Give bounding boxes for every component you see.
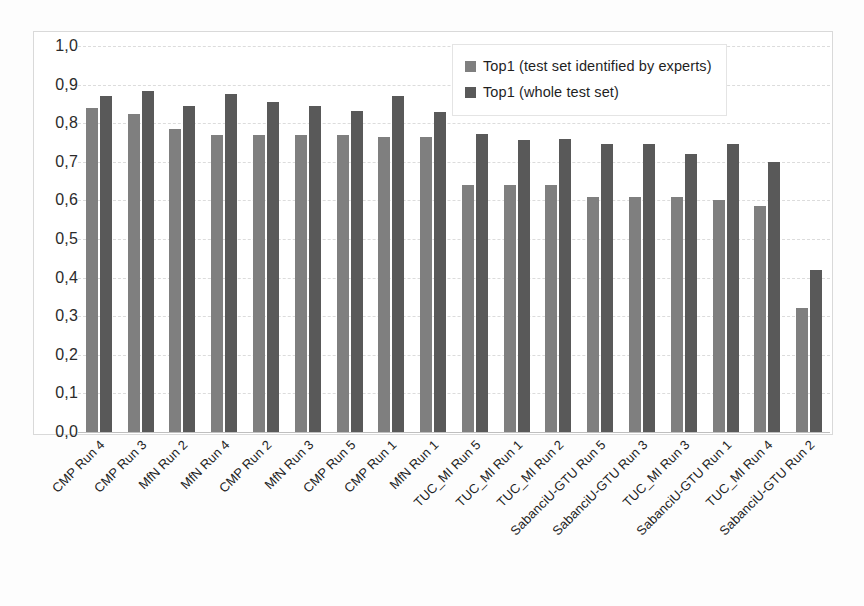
bar bbox=[378, 137, 390, 432]
bar bbox=[545, 185, 557, 432]
bar bbox=[727, 144, 739, 432]
bar bbox=[518, 140, 530, 432]
bar bbox=[351, 111, 363, 432]
y-axis-tick-label: 1,0 bbox=[36, 37, 78, 55]
y-axis-tick-label: 0,4 bbox=[36, 269, 78, 287]
bar bbox=[713, 200, 725, 432]
bar-group bbox=[418, 46, 448, 432]
bar bbox=[504, 185, 516, 432]
bar bbox=[142, 91, 154, 432]
bar-group bbox=[84, 46, 114, 432]
bar-group bbox=[167, 46, 197, 432]
bar bbox=[225, 94, 237, 432]
x-axis: CMP Run 4CMP Run 3MfN Run 2MfN Run 4CMP … bbox=[78, 437, 830, 587]
bar bbox=[685, 154, 697, 432]
bar bbox=[434, 112, 446, 432]
legend-item: Top1 (test set identified by experts) bbox=[465, 53, 712, 79]
bar-chart: 1,00,90,80,70,60,50,40,30,20,10,0 CMP Ru… bbox=[0, 0, 864, 606]
bar-group bbox=[251, 46, 281, 432]
bar-group bbox=[209, 46, 239, 432]
y-axis-tick-label: 0,0 bbox=[36, 423, 78, 441]
bar bbox=[587, 197, 599, 432]
bar bbox=[420, 137, 432, 432]
y-axis-tick-label: 0,5 bbox=[36, 230, 78, 248]
legend-label: Top1 (whole test set) bbox=[483, 84, 619, 100]
bar bbox=[253, 135, 265, 432]
bar-group bbox=[126, 46, 156, 432]
legend-swatch-icon bbox=[465, 87, 476, 98]
legend-label: Top1 (test set identified by experts) bbox=[483, 58, 712, 74]
bar bbox=[810, 270, 822, 432]
bar bbox=[643, 144, 655, 432]
bar bbox=[169, 129, 181, 432]
y-axis: 1,00,90,80,70,60,50,40,30,20,10,0 bbox=[33, 46, 78, 432]
bar bbox=[462, 185, 474, 432]
bar-group bbox=[293, 46, 323, 432]
bar bbox=[86, 108, 98, 432]
chart-legend: Top1 (test set identified by experts)Top… bbox=[452, 44, 727, 116]
bar bbox=[629, 197, 641, 432]
y-axis-tick-label: 0,6 bbox=[36, 191, 78, 209]
bar-group bbox=[794, 46, 824, 432]
bar bbox=[671, 197, 683, 432]
bar-group bbox=[376, 46, 406, 432]
bar bbox=[754, 206, 766, 432]
bar bbox=[183, 106, 195, 432]
bar-group bbox=[335, 46, 365, 432]
bar bbox=[267, 102, 279, 432]
bar bbox=[309, 106, 321, 432]
bar bbox=[768, 162, 780, 432]
bar bbox=[128, 114, 140, 432]
y-axis-tick-label: 0,2 bbox=[36, 346, 78, 364]
gridline bbox=[78, 432, 830, 433]
y-axis-tick-label: 0,1 bbox=[36, 384, 78, 402]
bar-group bbox=[752, 46, 782, 432]
legend-item: Top1 (whole test set) bbox=[465, 79, 712, 105]
bar bbox=[100, 96, 112, 432]
bar bbox=[559, 139, 571, 432]
bar bbox=[295, 135, 307, 432]
bar bbox=[601, 144, 613, 432]
bar bbox=[796, 308, 808, 432]
y-axis-tick-label: 0,3 bbox=[36, 307, 78, 325]
bar bbox=[211, 135, 223, 432]
legend-swatch-icon bbox=[465, 61, 476, 72]
bar bbox=[476, 134, 488, 432]
y-axis-tick-label: 0,9 bbox=[36, 76, 78, 94]
bar bbox=[392, 96, 404, 432]
bar bbox=[337, 135, 349, 432]
y-axis-tick-label: 0,8 bbox=[36, 114, 78, 132]
y-axis-tick-label: 0,7 bbox=[36, 153, 78, 171]
